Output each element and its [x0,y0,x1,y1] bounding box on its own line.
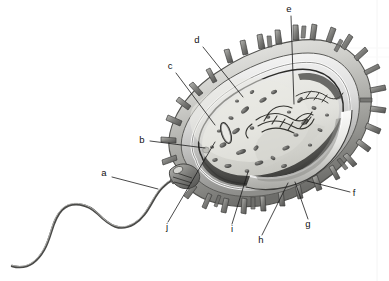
label-f: f [353,187,356,198]
label-d: d [194,34,199,45]
label-h: h [258,234,263,245]
label-g: g [305,218,310,229]
label-e: e [286,3,291,14]
label-j: j [165,221,168,232]
diagram-canvas: a b c d e f g h i j [0,0,389,281]
bacterium-diagram-figure: a b c d e f g h i j [0,0,389,281]
label-i: i [231,223,233,234]
label-c: c [168,60,173,71]
label-a: a [101,167,107,178]
label-b: b [139,134,144,145]
